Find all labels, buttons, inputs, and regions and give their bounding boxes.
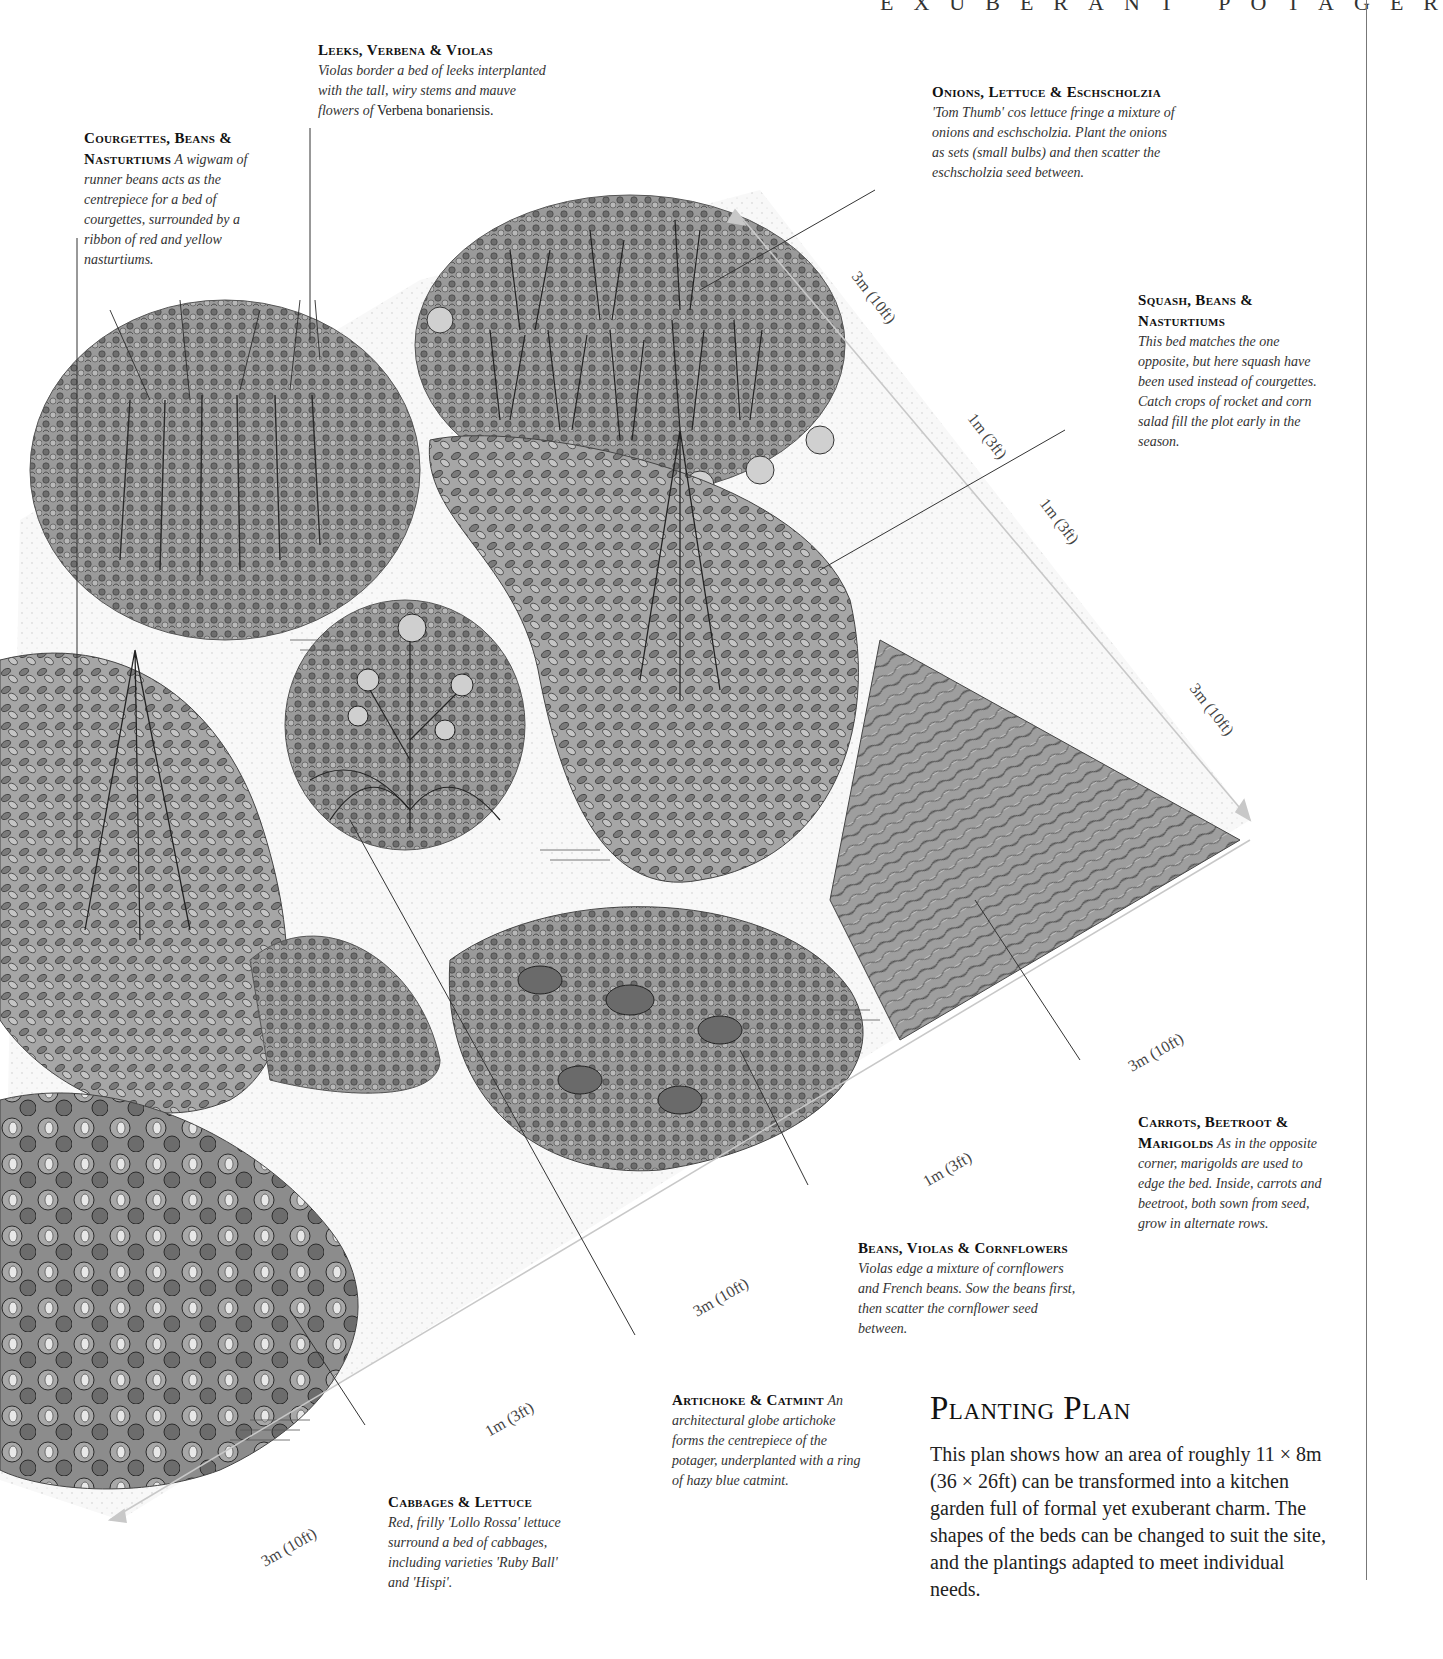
label-onions: Onions, Lettuce & Eschscholzia 'Tom Thum…: [932, 82, 1177, 183]
label-carrots: Carrots, Beetroot & Marigolds As in the …: [1138, 1112, 1328, 1234]
label-cabbages: Cabbages & Lettuce Red, frilly 'Lollo Ro…: [388, 1492, 573, 1593]
planting-plan-section: Planting Plan This plan shows how an are…: [930, 1390, 1330, 1603]
artichoke-bed: [285, 600, 525, 850]
label-artichoke: Artichoke & Catmint An architectural glo…: [672, 1390, 862, 1491]
label-squash: Squash, Beans & Nasturtiums This bed mat…: [1138, 290, 1328, 452]
label-leeks: Leeks, Verbena & Violas Violas border a …: [318, 40, 553, 121]
leeks-bed: [30, 300, 420, 640]
planting-plan-heading: Planting Plan: [930, 1390, 1330, 1427]
label-courgettes: Courgettes, Beans & Nasturtiums A wigwam…: [84, 128, 269, 270]
label-beans: Beans, Violas & Cornflowers Violas edge …: [858, 1238, 1083, 1339]
planting-plan-body: This plan shows how an area of roughly 1…: [930, 1441, 1330, 1603]
